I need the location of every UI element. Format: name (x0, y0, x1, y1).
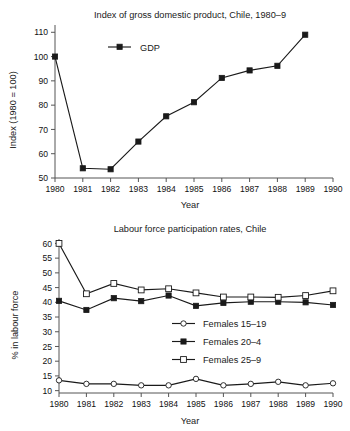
lfp-data-point-marker (111, 296, 116, 301)
gdp-legend-marker-icon (117, 44, 122, 49)
lfp-data-point-marker (84, 307, 89, 312)
lfp-legend-marker-icon-3 (181, 357, 187, 363)
lfp-data-point-marker (139, 299, 144, 304)
lfp-x-axis-label: Year (181, 416, 200, 426)
gdp-data-point-marker (136, 139, 141, 144)
gdp-data-point-marker (275, 63, 280, 68)
lfp-data-point-marker (111, 281, 117, 287)
lfp-x-tick-label: 1986 (214, 399, 233, 409)
gdp-y-tick-label: 100 (34, 52, 49, 62)
gdp-legend-label: GDP (140, 43, 160, 53)
lfp-data-point-marker (193, 303, 198, 308)
lfp-legend-label-2: Females 20–4 (203, 337, 261, 347)
lfp-x-tick-label: 1984 (159, 399, 178, 409)
lfp-y-tick-label: 30 (42, 327, 52, 337)
gdp-chart-figure: Index of gross domestic product, Chile, … (0, 0, 350, 215)
lfp-data-point-marker (56, 241, 62, 247)
gdp-y-tick-label: 50 (38, 173, 48, 183)
lfp-data-point-marker (56, 298, 61, 303)
lfp-x-tick-label: 1981 (77, 399, 96, 409)
lfp-y-tick-label: 40 (42, 297, 52, 307)
gdp-y-tick-label: 70 (38, 125, 48, 135)
gdp-x-axis-label: Year (181, 200, 200, 210)
lfp-data-point-marker (248, 381, 253, 386)
lfp-legend-marker-icon-1 (181, 321, 186, 326)
lfp-data-point-marker (84, 291, 90, 297)
gdp-data-point-marker (191, 100, 196, 105)
lfp-y-tick-label: 35 (42, 312, 52, 322)
lfp-data-point-marker (111, 381, 116, 386)
lfp-x-tick-label: 1983 (132, 399, 151, 409)
lfp-data-point-marker (84, 381, 89, 386)
lfp-y-tick-label: 25 (42, 342, 52, 352)
lfp-data-point-marker (166, 286, 172, 292)
lfp-y-tick-label: 60 (42, 239, 52, 249)
lfp-x-tick-label: 1987 (241, 399, 260, 409)
gdp-x-tick-label: 1984 (157, 184, 176, 194)
gdp-chart-title: Index of gross domestic product, Chile, … (94, 10, 286, 20)
gdp-data-point-marker (164, 114, 169, 119)
lfp-y-axis-label: % in labour force (10, 291, 20, 360)
gdp-y-tick-label: 60 (38, 149, 48, 159)
gdp-data-point-marker (108, 167, 113, 172)
lfp-chart-title: Labour force participation rates, Chile (114, 224, 267, 234)
lfp-legend-label-1: Females 15–19 (203, 319, 266, 329)
gdp-x-tick-label: 1985 (184, 184, 203, 194)
lfp-x-tick-label: 1988 (269, 399, 288, 409)
lfp-x-tick-label: 1990 (323, 399, 342, 409)
lfp-chart-figure: Labour force participation rates, Chile … (0, 215, 350, 431)
gdp-data-point-marker (80, 166, 85, 171)
lfp-data-point-marker (56, 378, 61, 383)
lfp-x-tick-label: 1985 (186, 399, 205, 409)
lfp-data-point-marker (166, 383, 171, 388)
gdp-x-tick-label: 1981 (73, 184, 92, 194)
lfp-y-tick-label: 20 (42, 356, 52, 366)
gdp-data-point-marker (247, 68, 252, 73)
gdp-x-tick-label: 1980 (45, 184, 64, 194)
gdp-x-tick-label: 1982 (101, 184, 120, 194)
gdp-x-tick-label: 1989 (296, 184, 315, 194)
lfp-data-point-marker (276, 379, 281, 384)
lfp-x-tick-label: 1989 (296, 399, 315, 409)
lfp-x-tick-label: 1980 (49, 399, 68, 409)
lfp-x-tick-label: 1982 (104, 399, 123, 409)
gdp-data-point-marker (303, 32, 308, 37)
lfp-data-point-marker (139, 383, 144, 388)
gdp-x-tick-label: 1986 (212, 184, 231, 194)
lfp-y-tick-label: 50 (42, 268, 52, 278)
gdp-x-tick-label: 1987 (240, 184, 259, 194)
lfp-data-point-marker (193, 290, 199, 296)
lfp-chart-svg: Labour force participation rates, Chile … (0, 215, 350, 431)
gdp-y-axis-label: Index (1980 = 100) (8, 71, 18, 148)
lfp-data-point-marker (275, 294, 281, 300)
lfp-y-tick-label: 15 (42, 371, 52, 381)
lfp-data-point-marker (221, 300, 226, 305)
lfp-legend-label-3: Females 25–9 (203, 355, 261, 365)
lfp-data-point-marker (330, 302, 335, 307)
lfp-data-point-marker (193, 376, 198, 381)
gdp-y-tick-label: 90 (38, 76, 48, 86)
lfp-data-point-marker (330, 381, 335, 386)
gdp-chart-svg: Index of gross domestic product, Chile, … (0, 0, 350, 215)
lfp-data-point-marker (166, 293, 171, 298)
lfp-y-tick-label: 55 (42, 253, 52, 263)
gdp-y-tick-label: 110 (34, 27, 48, 37)
lfp-y-tick-label: 10 (42, 386, 52, 396)
lfp-data-point-marker (138, 287, 144, 293)
lfp-y-tick-label: 45 (42, 283, 52, 293)
lfp-data-point-marker (303, 293, 309, 299)
lfp-data-point-marker (303, 300, 308, 305)
gdp-x-tick-label: 1990 (323, 184, 342, 194)
gdp-data-point-marker (219, 75, 224, 80)
gdp-y-tick-label: 80 (38, 100, 48, 110)
lfp-data-point-marker (248, 294, 254, 300)
lfp-data-point-marker (221, 383, 226, 388)
gdp-x-tick-label: 1988 (268, 184, 287, 194)
lfp-legend-marker-icon-2 (181, 339, 186, 344)
gdp-data-point-marker (52, 54, 57, 59)
lfp-data-point-marker (303, 383, 308, 388)
gdp-x-tick-label: 1983 (129, 184, 148, 194)
lfp-data-point-marker (330, 288, 336, 294)
lfp-data-point-marker (221, 294, 227, 300)
